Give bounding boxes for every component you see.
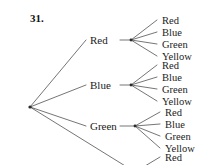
branch-line-level2 [135,112,160,126]
tree-node-label-level1: Red [90,35,108,46]
tree-leaf-label: Red [162,16,179,27]
tree-leaf-label: Green [165,132,191,143]
branch-line-level2 [135,126,160,148]
tree-leaf-label: Green [162,85,188,96]
tree-leaf-label: Red [162,61,179,72]
tree-fan-node [130,84,133,87]
tree-fan-node [130,39,133,42]
problem-number: 31. [30,13,44,24]
tree-fan-node [134,125,137,128]
branch-line-level2 [131,20,157,40]
tree-leaf-label: Blue [162,28,182,39]
tree-leaf-label: Blue [162,73,182,84]
branch-line-level2 [131,40,157,56]
tree-diagram-page: 31. RedRedBlueGreenYellowBlueRedBlueGree… [0,0,208,165]
branch-line-level1 [30,107,86,126]
branch-line-level2 [131,32,157,40]
branch-line-level2 [131,85,157,101]
tree-node-label-level1: Green [90,121,117,132]
tree-root-node [28,105,31,108]
tree-leaf-label: Blue [165,120,185,131]
branch-line-level2 [135,157,160,165]
branch-line-level1 [30,85,86,107]
branch-line-level2 [131,65,157,85]
branch-line-level1 [30,107,135,165]
tree-leaf-label: Green [162,40,188,51]
tree-leaf-label: Yellow [162,97,192,108]
tree-leaf-label: Red [165,108,182,119]
branch-line-level1 [30,40,86,107]
tree-node-label-level1: Blue [90,80,111,91]
branch-line-level2 [131,77,157,85]
branch-line-level2 [135,126,160,136]
tree-leaf-label: Red [165,153,182,164]
